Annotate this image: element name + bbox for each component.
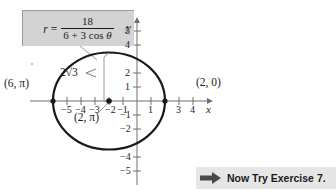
y-tick-label-neg2: −2 [120, 124, 131, 134]
equation-numerator: 18 [78, 16, 97, 28]
theta-symbol: θ [106, 29, 111, 41]
point-6-pi [50, 98, 55, 103]
y-tick-label-2: 2 [125, 68, 130, 78]
now-try-exercise-text: Now Try Exercise 7. [227, 172, 326, 184]
x-axis-label: x [206, 104, 211, 115]
y-tick-label-1: 1 [125, 82, 130, 92]
equation-callout-box: r = 18 6 + 3 cos θ [22, 10, 134, 46]
equation-fraction: 18 6 + 3 cos θ [61, 16, 113, 41]
equation-lhs: r [43, 23, 47, 35]
y-tick-label-4: 4 [125, 40, 130, 50]
x-tick-label-3: 3 [176, 105, 181, 115]
point-2-pi [106, 98, 112, 104]
x-tick-label-4: 4 [190, 105, 195, 115]
y-tick-label-neg1: −1 [120, 110, 131, 120]
point-label-2-pi: (2, π) [74, 112, 99, 124]
polar-equation: r = 18 6 + 3 cos θ [43, 16, 113, 41]
x-tick-label-1: 1 [148, 105, 153, 115]
x-tick-label-neg2: −2 [105, 105, 116, 115]
y-tick-label-neg4: −4 [120, 152, 131, 162]
semi-minor-axis-label: 2√3 [60, 67, 78, 79]
denominator-text: 6 + 3 cos [63, 29, 106, 41]
brace-pointer [86, 69, 96, 77]
right-arrow-icon [200, 171, 222, 185]
y-tick-label-5: 5 [125, 26, 130, 36]
semi-minor-indicator [104, 53, 109, 101]
equation-denominator: 6 + 3 cos θ [61, 29, 113, 41]
point-2-0 [162, 98, 167, 103]
x-tick-label-neg5: −5 [61, 105, 72, 115]
point-label-2-0: (2, 0) [196, 77, 221, 89]
y-tick-label-neg5: −5 [120, 166, 131, 176]
now-try-exercise-banner[interactable]: Now Try Exercise 7. [196, 167, 336, 189]
equation-equals-sign: = [51, 23, 58, 35]
point-label-6-pi: (6, π) [4, 78, 29, 90]
